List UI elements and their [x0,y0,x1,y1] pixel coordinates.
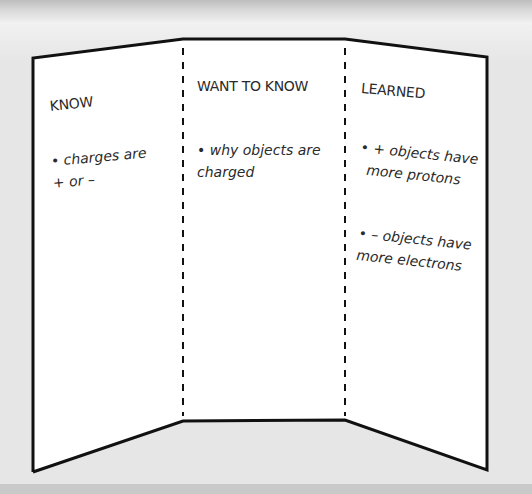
panel-heading-want-to-know: WANT TO KNOW [197,78,308,94]
note-line: • why objects are [197,139,321,161]
know-note-1: • charges are + or – [50,142,149,194]
note-line: charged [197,161,321,183]
middle-panel [183,39,345,421]
want-to-know-note-1: • why objects are charged [197,139,321,183]
